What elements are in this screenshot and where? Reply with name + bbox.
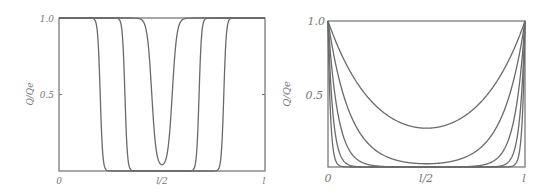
left-chart: 1.0 0.5 Q/Qe 0 l/2 l xyxy=(0,0,274,196)
left-series-3 xyxy=(59,18,265,165)
right-series-2 xyxy=(328,21,525,164)
left-series-2 xyxy=(59,18,265,171)
left-xtick-label-l: l xyxy=(263,176,266,186)
right-xtick-label-l: l xyxy=(522,172,526,185)
right-xtick-label-mid: l/2 xyxy=(419,172,433,185)
left-ytick-label-mid: 0.5 xyxy=(40,90,55,100)
right-series-3 xyxy=(328,21,525,167)
left-plot-frame xyxy=(59,18,265,171)
left-ytick-label-top: 1.0 xyxy=(40,14,55,24)
right-ylabel: Q/Qe xyxy=(281,81,292,107)
left-series-1 xyxy=(59,18,265,171)
left-curves xyxy=(59,18,265,171)
right-plot-frame xyxy=(328,21,525,167)
left-ylabel: Q/Qe xyxy=(25,82,35,105)
left-xtick-label-0: 0 xyxy=(56,176,62,186)
right-xtick-label-0: 0 xyxy=(325,172,332,185)
right-ytick-label-mid: 0.5 xyxy=(306,89,324,102)
left-xtick-label-mid: l/2 xyxy=(156,176,168,186)
right-series-5 xyxy=(328,21,525,167)
right-series-4 xyxy=(328,21,525,167)
right-curves xyxy=(328,21,525,167)
right-series-1 xyxy=(328,21,525,128)
right-ytick-label-top: 1.0 xyxy=(308,15,326,28)
right-chart: 1.0 0.5 Q/Qe 0 l/2 l xyxy=(274,0,548,196)
